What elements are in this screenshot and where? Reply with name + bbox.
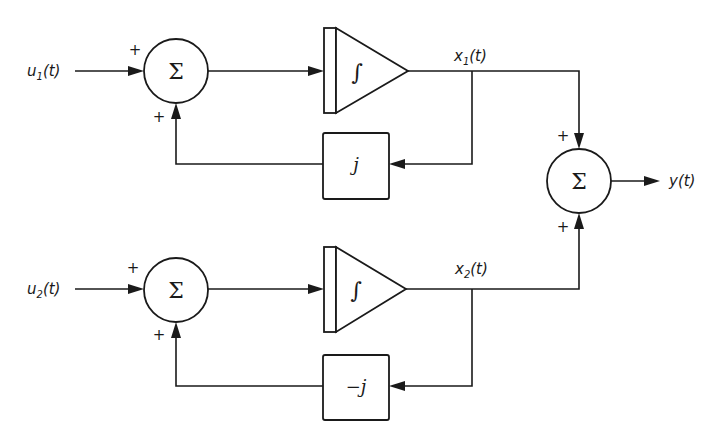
sigma-icon: Σ — [168, 59, 184, 84]
input-label-u2: u2(t) — [27, 280, 60, 300]
arrow-head-icon — [128, 284, 144, 294]
output-label-y: y(t) — [668, 172, 695, 190]
integral-icon: ∫ — [350, 278, 362, 303]
arrow-head-icon — [644, 176, 660, 186]
sigma-icon: Σ — [571, 169, 587, 194]
wire-gain-j-to-sum1 — [171, 103, 323, 164]
arrow-head-icon — [574, 213, 584, 229]
sign-plus-out-top: + — [557, 127, 570, 145]
arrow-head-icon — [171, 322, 181, 338]
state-label-x2: x2(t) — [454, 260, 488, 280]
summing-junction-2: Σ — [144, 258, 208, 322]
wire-x2-feedback — [389, 289, 472, 391]
wire-u1-to-sum1 — [75, 66, 144, 76]
wire-x1-feedback — [389, 71, 472, 169]
wire-sum2-to-int2 — [208, 284, 324, 294]
arrow-head-icon — [128, 66, 144, 76]
arrow-head-icon — [389, 381, 405, 391]
sign-plus-out-bottom: + — [557, 218, 570, 236]
wire-u2-to-sum2 — [75, 284, 144, 294]
arrow-head-icon — [171, 103, 181, 119]
summing-junction-output: Σ — [547, 149, 611, 213]
gain-block-j: j — [323, 133, 389, 199]
sign-plus-sum2-feedback: + — [153, 326, 166, 344]
summing-junction-1: Σ — [144, 39, 208, 103]
sign-plus-sum2-input: + — [127, 259, 140, 277]
block-diagram: u1(t) Σ + + ∫ x1(t) j — [0, 0, 724, 442]
arrow-head-icon — [308, 284, 324, 294]
integral-icon: ∫ — [351, 60, 363, 85]
input-label-u1: u1(t) — [27, 62, 60, 82]
state-label-x1: x1(t) — [453, 47, 487, 67]
gain-label-minus-j: −j — [346, 376, 367, 397]
integrator-2: ∫ — [324, 247, 406, 332]
sign-plus-sum1-input: + — [129, 41, 142, 59]
wire-gain-minus-j-to-sum2 — [171, 322, 323, 386]
wire-output-y — [611, 176, 660, 186]
sign-plus-sum1-feedback: + — [153, 108, 166, 126]
integrator-1: ∫ — [324, 28, 408, 113]
arrow-head-icon — [389, 159, 405, 169]
arrow-head-icon — [308, 66, 324, 76]
diagram-canvas: u1(t) Σ + + ∫ x1(t) j — [0, 0, 724, 442]
arrow-head-icon — [574, 133, 584, 149]
gain-block-minus-j: −j — [323, 355, 389, 420]
wire-sum1-to-int1 — [208, 66, 324, 76]
sigma-icon: Σ — [168, 278, 184, 303]
